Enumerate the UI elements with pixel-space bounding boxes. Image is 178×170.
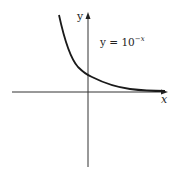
- x-axis-label: x: [161, 93, 168, 106]
- y-axis-arrow-icon: [86, 12, 91, 19]
- exponential-curve: [59, 15, 165, 91]
- equation-label: y = 10−x: [99, 35, 145, 48]
- equation-exponent: −x: [135, 35, 145, 43]
- graph: y x y = 10−x: [0, 0, 178, 170]
- equation-base: y = 10: [99, 36, 135, 48]
- y-axis-label: y: [76, 10, 84, 23]
